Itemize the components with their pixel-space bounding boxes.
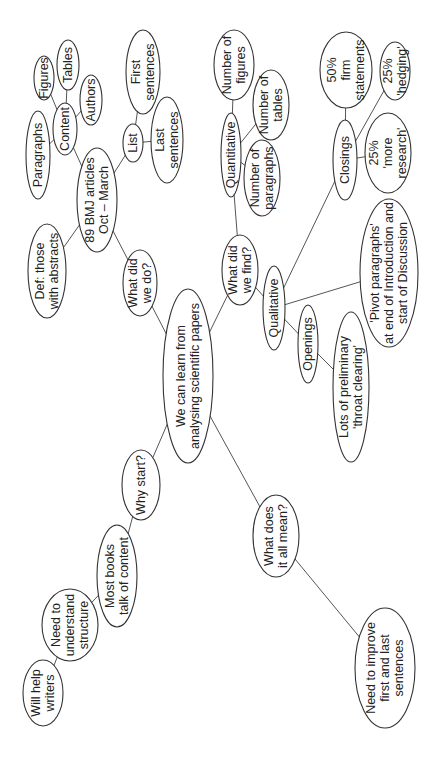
node-label-line: paragraphs [262,146,276,209]
node-label-line: talk of content [117,537,131,615]
node-content: Content [53,103,77,155]
node-label-line: Lots of preliminary [337,335,351,438]
node-label-line: Content [58,107,72,151]
node-label: Qualitative [267,278,281,337]
node-number-of-paragraphs: Number ofparagraphs [244,140,280,216]
node-label-line: statements [353,39,367,100]
node-label-line: Qualitative [267,278,281,337]
node-label-line: Number of [257,75,271,134]
node-label-line: Closings [338,136,352,184]
node-tables: Tables [57,40,79,90]
node-label-line: Quantitative [224,122,238,189]
node-label: Tables [61,47,75,83]
node-label-line: 50% [325,57,339,82]
node-label: Most bookstalk of content [103,537,131,615]
node-need-improve: Need to improvefirst and lastsentences [355,608,415,728]
node-more-research: 25%'moreresearch' [365,113,411,193]
node-qualitative: Qualitative [263,266,285,350]
node-hedging: 25%'hedging' [380,42,410,100]
edge-qualitative-to-closings [274,160,345,308]
node-throat-clearing: Lots of preliminary'throat clearing' [333,312,369,462]
node-will-help-writers: Will helpwriters [23,660,63,726]
node-openings: Openings [298,305,318,383]
node-what-did-we-do: What didwe do? [123,250,157,316]
node-label-line: sentences [167,112,181,169]
node-label-line: Why start? [134,455,148,515]
node-label-line: Most books [103,544,117,608]
node-label-line: 89 BMJ articles [83,157,97,242]
node-label-line: firm [339,60,353,81]
node-label-line: sentences [392,640,406,697]
node-label-line: with abstracts [47,233,61,310]
node-label-line: Openings [301,317,315,371]
node-why-start: Why start? [122,450,160,520]
node-label-line: What did [126,258,140,307]
node-first-sentences: Firstsentences [126,30,160,114]
node-label: Will helpwriters [29,669,57,716]
node-quantitative: Quantitative [221,113,241,197]
node-label-line: Number of [248,148,262,207]
node-label: 89 BMJ articlesOct – March [83,157,111,242]
node-label-line: Oct – March [97,166,111,234]
node-what-does-it-mean: What doesit all mean? [253,495,299,577]
node-firm-statements: 50%firmstatements [320,32,372,108]
node-label: Authors [84,78,98,121]
node-last-sentences: Lastsentences [151,97,183,183]
node-label-line: 'hedging' [395,46,409,95]
node-closings: Closings [333,120,357,200]
node-label: List [126,133,140,153]
node-label-line: tables [271,88,285,121]
node-label-line: Need to improve [364,622,378,714]
node-label-line: What did [226,245,240,294]
node-label: Quantitative [224,122,238,189]
node-label: Figures [37,57,51,99]
node-bmj-articles: 89 BMJ articlesOct – March [77,148,117,252]
node-label: What didwe find? [226,245,254,294]
node-label: Def: thosewith abstracts [33,233,61,310]
node-label-line: analysing scientific papers [188,303,202,449]
node-label-line: What does [262,506,276,566]
node-authors: Authors [80,75,102,125]
node-label-line: 25% [367,140,381,165]
node-label-line: 'more [381,138,395,169]
node-label-line: Paragraphs [31,123,45,188]
node-label: Closings [338,136,352,184]
node-label: What doesit all mean? [262,504,290,568]
node-def-abstracts: Def: thosewith abstracts [28,224,66,318]
node-label-line: we find? [240,247,254,295]
node-label-line: 'Pivot paragraphs' [368,223,382,322]
node-label-line: sentences [143,44,157,101]
node-label-line: research' [395,127,409,178]
node-label: Paragraphs [31,123,45,188]
node-label-line: Need to [49,603,63,647]
mind-map-canvas: We can learn fromanalysing scientific pa… [0,0,434,758]
node-figures: Figures [34,56,54,100]
node-label-line: writers [43,675,57,713]
node-label: Openings [301,317,315,371]
node-label-line: Last [153,128,167,152]
node-most-books: Most bookstalk of content [97,525,137,627]
node-label: Lots of preliminary'throat clearing' [337,335,365,438]
node-label-line: 'throat clearing' [351,345,365,429]
node-label-line: Figures [37,57,51,99]
node-list: List [123,124,143,162]
node-label-line: 25% [381,58,395,83]
node-label-line: We can learn from [174,325,188,427]
node-label: Why start? [134,455,148,515]
node-number-of-tables: Number oftables [253,70,289,140]
node-what-did-we-find: What didwe find? [222,235,258,305]
node-label-line: First [129,59,143,84]
node-label-line: we do? [140,263,154,304]
node-label-line: at end of Introduction and [382,202,396,344]
node-paragraphs: Paragraphs [26,111,50,199]
node-label-line: Tables [61,47,75,83]
node-label: Number ofparagraphs [248,146,276,209]
node-label: What didwe do? [126,258,154,307]
node-label-line: it all mean? [276,504,290,568]
node-label-line: structure [77,601,91,650]
node-label-line: first and last [378,634,392,702]
node-label-line: start of Discussion [396,222,410,324]
node-label-line: Number of [220,35,234,94]
node-label-line: Will help [29,669,43,716]
node-label-line: List [126,133,140,153]
